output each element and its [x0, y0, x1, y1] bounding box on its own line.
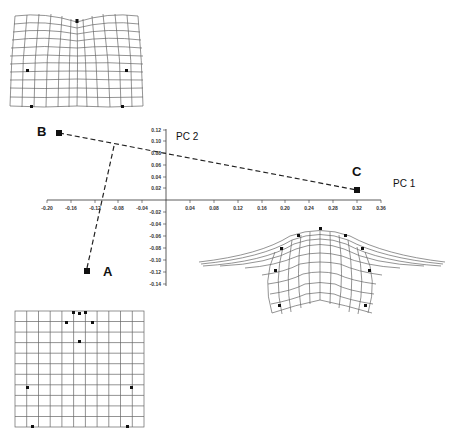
x-tick-label: -0.12: [89, 205, 101, 211]
x-tick-label: -0.08: [112, 205, 124, 211]
y-tick-label: -0.14: [150, 281, 162, 287]
y-tick-label: -0.06: [150, 233, 162, 239]
point-c-label: C: [352, 164, 362, 179]
reference-grid: [15, 311, 144, 427]
y-tick-label: 0.04: [151, 174, 161, 180]
x-tick-label: 0.36: [376, 205, 386, 211]
figure-canvas: -0.20 -0.16 -0.12 -0.08 -0.04 0.04 0.08 …: [0, 0, 459, 443]
y-tick-label: -0.10: [150, 257, 162, 263]
deformation-grid-b: [10, 14, 143, 107]
y-tick-label: 0.02: [151, 185, 161, 191]
point-b-label: B: [37, 124, 46, 139]
x-tick-label: 0.08: [209, 205, 219, 211]
x-tick-label: 0.32: [352, 205, 362, 211]
y-axis-title: PC 2: [176, 131, 199, 142]
y-tick-label: 0.10: [151, 138, 161, 144]
x-tick-label: 0.04: [185, 205, 195, 211]
deformation-grid-c: [199, 231, 445, 315]
b-to-c-line: [59, 133, 357, 190]
y-tick-label: 0.12: [151, 127, 161, 133]
connector-lines: [59, 133, 357, 268]
point-a-marker: [84, 268, 90, 274]
point-a-label: A: [103, 264, 113, 279]
x-tick-labels: -0.20 -0.16 -0.12 -0.08 -0.04 0.04 0.08 …: [41, 205, 386, 211]
y-tick-label: 0.06: [151, 162, 161, 168]
x-tick-label: -0.04: [136, 205, 148, 211]
y-tick-label: 0.08: [151, 150, 161, 156]
point-b-marker: [56, 130, 62, 136]
x-tick-label: 0.28: [328, 205, 338, 211]
y-tick-label: -0.02: [150, 209, 162, 215]
point-c-marker: [354, 187, 360, 193]
y-tick-label: -0.04: [150, 221, 162, 227]
x-tick-label: 0.12: [233, 205, 243, 211]
x-ticks: [47, 200, 381, 203]
x-tick-label: 0.24: [304, 205, 314, 211]
y-tick-label: -0.08: [150, 245, 162, 251]
x-tick-label: -0.20: [41, 205, 53, 211]
x-tick-label: 0.20: [280, 205, 290, 211]
landmarks-reference-grid: [26, 311, 133, 428]
x-tick-label: -0.16: [65, 205, 77, 211]
y-tick-label: -0.12: [150, 269, 162, 275]
x-axis-title: PC 1: [393, 178, 416, 189]
x-tick-label: 0.16: [257, 205, 267, 211]
